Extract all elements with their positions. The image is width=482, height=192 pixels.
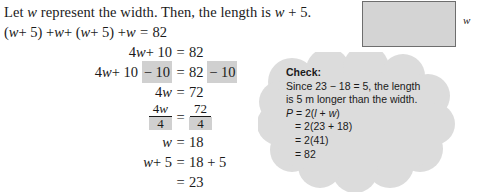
highlight-subtract-right: − 10 [207, 61, 237, 83]
check-line-2: is 5 m longer than the width. [286, 93, 446, 107]
equals-sign: = [136, 22, 153, 42]
equation-lhs: 4w + 10 − 10 [0, 61, 172, 83]
equals-sign: = [172, 42, 189, 62]
equation-rhs: 23 [189, 172, 204, 192]
check-text-block: Check: Since 23 − 18 = 5, the length is … [286, 66, 446, 161]
equation-rhs: 72 [189, 82, 204, 102]
equation-row-highlighted: 4w + 10 − 10 = 82 − 10 [0, 62, 262, 82]
equals-sign: = [172, 172, 189, 192]
check-title: Check: [286, 66, 321, 78]
equation-rhs: 82 − 10 [189, 61, 237, 83]
equation-rhs: 82 [153, 22, 168, 42]
equation-lhs: 4w [0, 82, 172, 102]
equation-rhs: 18 + 5 [189, 152, 226, 172]
highlight-subtract-left: − 10 [142, 61, 172, 83]
check-line-6: = 82 [286, 148, 446, 162]
equals-sign: = [172, 132, 189, 152]
fraction-numerator: 72 [190, 103, 211, 117]
equation-lhs: 4w + 10 [0, 42, 172, 62]
equals-sign: = [172, 82, 189, 102]
equals-sign: = [172, 152, 189, 172]
equation-stack: (w + 5) + w + (w + 5) + w = 82 4w + 10 =… [0, 22, 262, 192]
check-cloud-callout: Check: Since 23 − 18 = 5, the length is … [258, 52, 458, 192]
equation-lhs: (w + 5) + w + (w + 5) + w [0, 22, 136, 42]
intro-sentence: Let w represent the width. Then, the len… [4, 2, 311, 22]
check-line-5: = 2(41) [286, 134, 446, 148]
equation-rhs-fraction: 72 4 [189, 104, 212, 131]
equation-row: = 23 [0, 172, 262, 192]
rectangle-diagram [362, 1, 456, 47]
equation-lhs: w [0, 132, 172, 152]
fraction-left: 4w 4 [149, 103, 172, 130]
worked-solution-figure: Let w represent the width. Then, the len… [0, 0, 482, 192]
equation-row: (w + 5) + w + (w + 5) + w = 82 [0, 22, 262, 42]
fraction-right: 72 4 [189, 103, 212, 130]
equation-rhs: 82 [189, 42, 204, 62]
intro-variable-w: w [27, 4, 37, 20]
fraction-numerator: 4w [149, 103, 172, 117]
check-line-1: Since 23 − 18 = 5, the length [286, 80, 446, 94]
equation-rhs: 18 [189, 132, 204, 152]
equation-row-fraction: 4w 4 = 72 4 [0, 102, 262, 132]
equals-sign: = [172, 107, 189, 127]
intro-variable-w2: w [275, 4, 285, 20]
equation-row: w + 5 = 18 + 5 [0, 152, 262, 172]
equation-row: 4w = 72 [0, 82, 262, 102]
equation-row: 4w + 10 = 82 [0, 42, 262, 62]
fraction-denominator: 4 [189, 117, 212, 130]
fraction-denominator: 4 [149, 117, 172, 130]
equation-lhs: w + 5 [0, 152, 172, 172]
intro-text-1: Let [4, 4, 27, 20]
intro-text-3: + 5. [284, 4, 311, 20]
equation-lhs-fraction: 4w 4 [0, 104, 172, 131]
check-line-4: = 2(23 + 18) [286, 120, 446, 134]
equation-row: w = 18 [0, 132, 262, 152]
intro-text-2: represent the width. Then, the length is [37, 4, 275, 20]
equals-sign: = [172, 62, 189, 82]
check-formula-perimeter: P = 2(l + w) [286, 107, 446, 121]
rectangle-width-label: w [463, 14, 470, 26]
